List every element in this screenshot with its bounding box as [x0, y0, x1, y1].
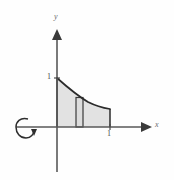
x-axis-label: x: [155, 121, 159, 129]
representative-vertical-strip: [76, 98, 83, 128]
rotation-arrow-icon: [16, 119, 34, 138]
figure-canvas: [0, 0, 174, 180]
y-axis-label: y: [54, 13, 58, 21]
arrow-right-icon: [141, 122, 152, 132]
y-axis-tick-label-1: 1: [47, 73, 51, 81]
x-axis-tick-label-1: 1: [107, 130, 111, 138]
arrow-up-icon: [52, 29, 62, 40]
figure-container: y x 1 1: [0, 0, 174, 180]
